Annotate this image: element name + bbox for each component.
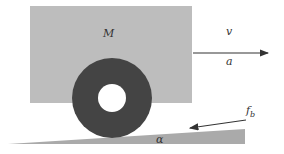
wheel-hub (98, 84, 126, 112)
brake-force-label: fb (245, 104, 255, 119)
acceleration-label: a (226, 55, 233, 68)
cart-diagram: M v a fb α (0, 0, 284, 154)
angle-label: α (156, 133, 164, 146)
velocity-label: v (226, 25, 233, 38)
mass-label: M (102, 27, 115, 40)
brake-force-arrow (190, 120, 246, 128)
